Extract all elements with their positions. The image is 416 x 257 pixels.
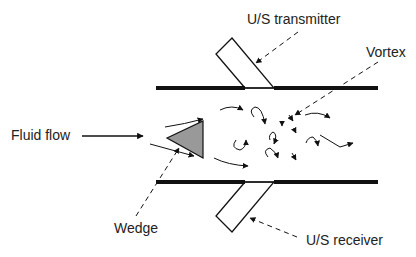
- us-receiver-shape: [216, 182, 274, 232]
- label-vortex: Vortex: [366, 44, 406, 60]
- us-transmitter-shape: [216, 38, 274, 88]
- vortex-flowmeter-diagram: U/S transmitter Vortex Fluid flow Wedge …: [0, 0, 416, 257]
- label-fluid-flow: Fluid flow: [11, 127, 71, 143]
- label-wedge: Wedge: [114, 220, 158, 236]
- transmitter-leader: [256, 32, 298, 63]
- vortex-swirls: [220, 107, 353, 160]
- wedge-shape: [167, 121, 203, 158]
- leader-lines: [136, 32, 378, 237]
- label-us-transmitter: U/S transmitter: [247, 11, 341, 27]
- receiver-leader: [250, 218, 297, 237]
- label-us-receiver: U/S receiver: [306, 232, 383, 248]
